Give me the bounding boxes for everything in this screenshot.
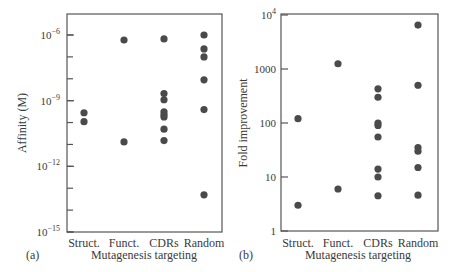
- data-point: [414, 192, 421, 199]
- data-point: [160, 96, 167, 103]
- figure: 10−610−910−1210−15 Struct.Funct.CDRsRand…: [0, 0, 456, 272]
- data-point: [414, 22, 421, 29]
- y-tick-label: 10: [265, 171, 277, 183]
- data-point: [120, 36, 127, 43]
- data-point: [374, 166, 381, 173]
- y-axis-label-a: Affinity (M): [15, 93, 29, 153]
- data-point: [200, 45, 207, 52]
- data-point: [374, 122, 381, 129]
- plot-frame-a: [67, 14, 222, 232]
- data-point: [374, 173, 381, 180]
- chart-fold-improvement: 1041000100101 Struct.Funct.CDRsRandom Mu…: [236, 7, 439, 262]
- data-point: [160, 35, 167, 42]
- data-point: [294, 202, 301, 209]
- data-point: [374, 94, 381, 101]
- y-tick-label: 104: [261, 7, 276, 21]
- data-point: [120, 138, 127, 145]
- x-axis-label-b: Mutagenesis targeting: [305, 248, 411, 262]
- data-point: [200, 106, 207, 113]
- y-tick-label: 1000: [254, 63, 277, 75]
- y-tick-label: 10−6: [40, 27, 60, 41]
- x-axis-label-a: Mutagenesis targeting: [91, 248, 197, 262]
- y-axis-label-b: Fold improvement: [236, 78, 250, 168]
- data-point: [374, 133, 381, 140]
- y-axis-tick-labels-b: 1041000100101: [254, 7, 277, 237]
- data-point: [414, 148, 421, 155]
- data-point: [200, 53, 207, 60]
- data-point: [200, 191, 207, 198]
- data-point: [200, 76, 207, 83]
- data-point: [334, 185, 341, 192]
- panel-label-b: (b): [239, 248, 253, 262]
- y-tick-label: 100: [260, 117, 277, 129]
- y-tick-label: 10−15: [36, 224, 60, 238]
- y-tick-label: 10−12: [36, 158, 60, 172]
- data-point: [80, 118, 87, 125]
- y-axis-tick-labels-a: 10−610−910−1210−15: [36, 27, 60, 238]
- data-point: [374, 192, 381, 199]
- data-point: [80, 109, 87, 116]
- data-point: [160, 113, 167, 120]
- data-point: [414, 82, 421, 89]
- data-point: [160, 90, 167, 97]
- data-points-b: [294, 22, 421, 209]
- y-axis-ticks-a: [67, 35, 74, 232]
- data-point: [200, 31, 207, 38]
- data-point: [294, 115, 301, 122]
- chart-affinity: 10−610−910−1210−15 Struct.Funct.CDRsRand…: [15, 14, 225, 262]
- data-point: [160, 126, 167, 133]
- y-tick-label: 10−9: [40, 93, 60, 107]
- data-point: [374, 85, 381, 92]
- panel-label-a: (a): [26, 248, 39, 262]
- data-point: [160, 137, 167, 144]
- plot-frame-b: [281, 14, 438, 231]
- data-point: [414, 164, 421, 171]
- data-points-a: [80, 31, 207, 198]
- y-tick-label: 1: [271, 225, 277, 237]
- y-axis-ticks-b: [281, 15, 288, 231]
- data-point: [334, 60, 341, 67]
